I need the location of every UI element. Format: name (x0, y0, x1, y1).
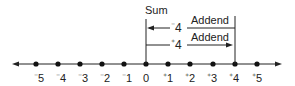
number-line-diagram: ⁻5 ⁻4 ⁻3 ⁻2 ⁻1 0 ⁺1 ⁺2 ⁺3 ⁺4 ⁺5 Sum ⁻4 A… (0, 0, 295, 86)
sum-label: Sum (145, 4, 168, 16)
bottom-addend-label: Addend (191, 31, 229, 43)
tick-label: ⁺5 (252, 72, 262, 84)
tick-label: ⁺1 (163, 72, 173, 84)
left-arrowhead-icon (12, 62, 19, 67)
bottom-arrowhead-icon (226, 43, 233, 48)
point-pos5 (254, 61, 259, 66)
tick-label: ⁻5 (34, 72, 44, 84)
top-arrowhead-icon (147, 26, 154, 31)
tick-label: ⁻2 (100, 72, 110, 84)
tick-label: ⁻4 (56, 72, 66, 84)
point-neg2 (99, 61, 104, 66)
tick-label: ⁺4 (229, 72, 239, 84)
bottom-arrow-value: ⁺4 (171, 38, 182, 52)
point-pos3 (210, 61, 215, 66)
tick-label: ⁻1 (122, 72, 132, 84)
tick-labels: ⁻5 ⁻4 ⁻3 ⁻2 ⁻1 0 ⁺1 ⁺2 ⁺3 ⁺4 ⁺5 (34, 72, 262, 84)
right-arrowhead-icon (275, 62, 282, 67)
point-neg5 (33, 61, 38, 66)
tick-label: ⁺3 (207, 72, 217, 84)
top-arrow-value: ⁻4 (171, 21, 182, 35)
point-pos2 (187, 61, 192, 66)
tick-label: 0 (143, 72, 149, 84)
point-neg3 (77, 61, 82, 66)
tick-label: ⁻3 (78, 72, 88, 84)
point-pos1 (165, 61, 170, 66)
top-addend-label: Addend (191, 14, 229, 26)
point-neg4 (55, 61, 60, 66)
point-neg1 (121, 61, 126, 66)
tick-label: ⁺2 (185, 72, 195, 84)
